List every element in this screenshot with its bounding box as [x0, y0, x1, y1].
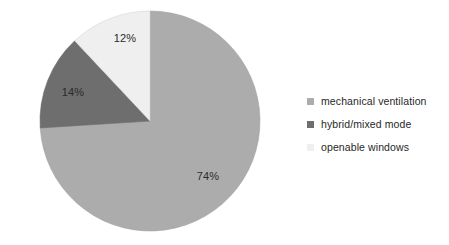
- pie-chart-figure: 12% 14% 74% mechanical ventilation hybri…: [0, 0, 449, 245]
- pie-svg: [0, 0, 280, 245]
- legend-swatch-icon: [307, 98, 314, 105]
- legend-swatch-icon: [307, 121, 314, 128]
- legend-item-hybrid-mixed-mode[interactable]: hybrid/mixed mode: [307, 113, 447, 136]
- legend-item-mechanical-ventilation[interactable]: mechanical ventilation: [307, 90, 447, 113]
- legend-swatch-icon: [307, 144, 314, 151]
- legend-item-label: mechanical ventilation: [321, 96, 427, 107]
- legend-item-label: openable windows: [321, 142, 409, 153]
- pie-label-hybrid-mixed-mode: 14%: [62, 86, 85, 98]
- legend-item-openable-windows[interactable]: openable windows: [307, 136, 447, 159]
- pie-label-mechanical-ventilation: 74%: [197, 170, 220, 182]
- pie-plot-area: 12% 14% 74%: [0, 0, 280, 245]
- legend-item-label: hybrid/mixed mode: [321, 119, 411, 130]
- chart-legend: mechanical ventilation hybrid/mixed mode…: [307, 90, 447, 159]
- pie-label-openable-windows: 12%: [114, 32, 137, 44]
